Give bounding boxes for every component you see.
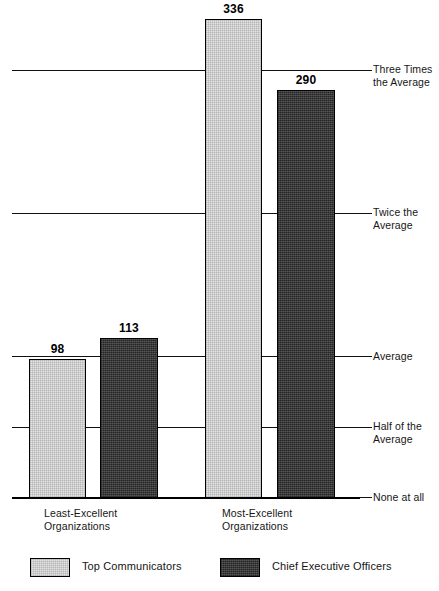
bar-ceo-least-excellent	[100, 338, 158, 498]
tick-average	[360, 356, 372, 357]
axis-label-three-times: Three Times the Average	[373, 63, 432, 88]
gridline-three-times	[12, 70, 360, 71]
axis-label-half: Half of the Average	[373, 420, 422, 445]
plot-area: 98 113 336 290	[12, 10, 360, 500]
legend: Top Communicators Chief Executive Office…	[0, 556, 439, 591]
legend-swatch-chief-executive-officers	[220, 558, 260, 577]
category-label-most-excellent: Most-Excellent Organizations	[222, 507, 342, 532]
bar-ceo-most-excellent	[277, 90, 335, 498]
bar-value-336: 336	[205, 2, 262, 16]
tick-half	[360, 427, 372, 428]
bar-top-communicators-most-excellent	[205, 19, 262, 498]
tick-three-times	[360, 70, 372, 71]
bar-chart: 98 113 336 290 Three Times the Average T…	[0, 0, 439, 591]
bar-top-communicators-least-excellent	[29, 359, 86, 498]
category-label-least-excellent: Least-Excellent Organizations	[44, 507, 164, 532]
bar-value-113: 113	[100, 321, 158, 335]
axis-label-average: Average	[373, 350, 413, 363]
axis-label-twice: Twice the Average	[373, 206, 418, 231]
legend-swatch-top-communicators	[30, 558, 70, 577]
tick-none	[360, 497, 372, 498]
tick-twice	[360, 213, 372, 214]
bar-value-98: 98	[29, 342, 86, 356]
bar-value-290: 290	[277, 73, 335, 87]
axis-label-none: None at all	[373, 491, 424, 504]
legend-label-chief-executive-officers: Chief Executive Officers	[272, 560, 392, 572]
legend-label-top-communicators: Top Communicators	[82, 560, 182, 572]
